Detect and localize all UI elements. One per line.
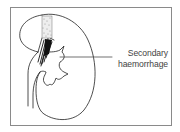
annotation-label: Secondary haemorrhage: [112, 48, 168, 70]
haemorrhage-dark-core: [44, 39, 52, 56]
hilum-vessel: [50, 38, 54, 40]
annotation-line-2: haemorrhage: [112, 59, 168, 70]
annotation-line-1: Secondary: [112, 48, 168, 59]
ureter-inner: [33, 72, 40, 108]
stippled-region: [42, 16, 52, 38]
kidney-upper-lobe: [20, 15, 42, 52]
